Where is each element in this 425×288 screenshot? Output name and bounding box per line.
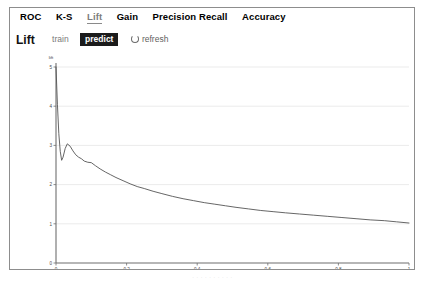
tab-gain[interactable]: Gain bbox=[112, 11, 144, 22]
svg-text:2: 2 bbox=[49, 182, 52, 187]
refresh-icon bbox=[131, 35, 139, 43]
plot-area: 012345 00.20.40.60.81 lift bbox=[10, 49, 414, 269]
tab-accuracy[interactable]: Accuracy bbox=[237, 11, 291, 22]
refresh-button[interactable]: refresh bbox=[131, 34, 168, 45]
svg-text:5: 5 bbox=[49, 65, 52, 70]
svg-text:0: 0 bbox=[55, 267, 58, 269]
x-axis-ticks: 00.20.40.60.81 bbox=[55, 263, 411, 269]
lift-curve-svg: 012345 00.20.40.60.81 lift bbox=[10, 49, 414, 269]
footer-artifact-text: · · · · · · · · · · bbox=[0, 274, 425, 283]
y-axis-label: lift bbox=[49, 55, 54, 60]
svg-text:3: 3 bbox=[49, 143, 52, 148]
chart-toolbar: Lift train predict refresh bbox=[10, 30, 414, 48]
dataset-toggle-train[interactable]: train bbox=[47, 33, 74, 46]
svg-text:0: 0 bbox=[49, 261, 52, 266]
tab-lift[interactable]: Lift bbox=[82, 11, 107, 22]
page-title: Lift bbox=[16, 32, 35, 48]
tab-ks[interactable]: K-S bbox=[51, 11, 78, 22]
svg-text:4: 4 bbox=[49, 104, 52, 109]
lift-chart-panel: ROC K-S Lift Gain Precision Recall Accur… bbox=[9, 7, 415, 270]
svg-text:0.4: 0.4 bbox=[194, 267, 201, 269]
svg-text:0.6: 0.6 bbox=[265, 267, 272, 269]
tab-roc[interactable]: ROC bbox=[15, 11, 46, 22]
svg-text:0.2: 0.2 bbox=[123, 267, 130, 269]
axis-lines bbox=[56, 63, 409, 263]
svg-text:1: 1 bbox=[49, 222, 52, 227]
y-axis-ticks: 012345 bbox=[49, 65, 56, 266]
svg-text:0.8: 0.8 bbox=[335, 267, 342, 269]
dataset-toggle-predict[interactable]: predict bbox=[80, 33, 118, 46]
lift-curve-path bbox=[56, 67, 409, 223]
tab-precision-recall[interactable]: Precision Recall bbox=[148, 11, 233, 22]
svg-text:1: 1 bbox=[408, 267, 411, 269]
refresh-label: refresh bbox=[142, 34, 168, 44]
grid-lines bbox=[56, 67, 409, 224]
metric-tab-bar: ROC K-S Lift Gain Precision Recall Accur… bbox=[10, 8, 414, 28]
